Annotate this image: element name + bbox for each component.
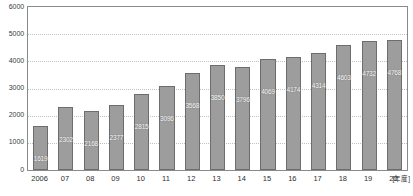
bar-slot: 4174 xyxy=(286,7,301,170)
bar-value-label: 3096 xyxy=(160,115,174,122)
bar-value-label: 4768 xyxy=(388,69,402,76)
bar-slot: 2377 xyxy=(109,7,124,170)
x-tick-label: 10 xyxy=(137,174,145,183)
bar-slot: 2168 xyxy=(84,7,99,170)
bar-value-label: 2377 xyxy=(110,134,124,141)
bar-slot: 4768 xyxy=(387,7,402,170)
y-tick-label: 4000 xyxy=(9,57,24,64)
bar[interactable] xyxy=(260,59,275,170)
bar[interactable] xyxy=(286,57,301,170)
y-axis: 0100020003000400050006000 xyxy=(0,0,26,196)
plot-area: 1619230221682377281530963568385037964069… xyxy=(27,6,408,171)
y-tick-label: 1000 xyxy=(9,138,24,145)
bar-slot: 1619 xyxy=(33,7,48,170)
bar[interactable] xyxy=(387,40,402,170)
bar-slot: 2302 xyxy=(58,7,73,170)
bar-value-label: 2168 xyxy=(84,140,98,147)
bar[interactable] xyxy=(134,94,149,170)
bar-chart: 0100020003000400050006000 16192302216823… xyxy=(0,0,413,196)
x-tick-label: 17 xyxy=(313,174,321,183)
bar[interactable] xyxy=(159,86,174,170)
bar-value-label: 4732 xyxy=(362,70,376,77)
bar-slot: 3568 xyxy=(185,7,200,170)
bar-value-label: 4174 xyxy=(286,86,300,93)
x-tick-label: 08 xyxy=(86,174,94,183)
bar-value-label: 4314 xyxy=(312,82,326,89)
x-tick-label: 2006 xyxy=(31,174,48,183)
y-tick-label: 5000 xyxy=(9,30,24,37)
x-axis: 20060708091011121314151617181920[年度] xyxy=(27,174,408,190)
bar[interactable] xyxy=(362,41,377,170)
bar-value-label: 4603 xyxy=(337,74,351,81)
x-tick-label: 15 xyxy=(263,174,271,183)
bar-value-label: 1619 xyxy=(34,155,48,162)
y-tick-label: 2000 xyxy=(9,111,24,118)
y-tick-label: 6000 xyxy=(9,3,24,10)
bar-slot: 3850 xyxy=(210,7,225,170)
bar-value-label: 3796 xyxy=(236,96,250,103)
bar-value-label: 2302 xyxy=(59,136,73,143)
x-axis-unit-label: [年度] xyxy=(392,174,410,183)
x-tick-label: 14 xyxy=(238,174,246,183)
x-tick-label: 07 xyxy=(61,174,69,183)
bar-slot: 4069 xyxy=(260,7,275,170)
bar-slot: 2815 xyxy=(134,7,149,170)
x-tick-label: 13 xyxy=(212,174,220,183)
x-tick-label: 16 xyxy=(288,174,296,183)
bar[interactable] xyxy=(336,45,351,170)
x-tick-label: 11 xyxy=(162,174,170,183)
bar-slot: 4314 xyxy=(311,7,326,170)
y-tick-label: 0 xyxy=(20,166,24,173)
bar-slot: 3796 xyxy=(235,7,250,170)
bar-value-label: 4069 xyxy=(261,88,275,95)
bar-slot: 3096 xyxy=(159,7,174,170)
x-tick-label: 09 xyxy=(111,174,119,183)
x-tick-label: 19 xyxy=(364,174,372,183)
x-tick-label: 12 xyxy=(187,174,195,183)
x-tick-label: 18 xyxy=(339,174,347,183)
y-tick-label: 3000 xyxy=(9,84,24,91)
bar-value-label: 3568 xyxy=(185,102,199,109)
bar[interactable] xyxy=(33,126,48,170)
bar[interactable] xyxy=(210,65,225,170)
bar[interactable] xyxy=(185,73,200,170)
bar[interactable] xyxy=(235,67,250,170)
bar-value-label: 2815 xyxy=(135,123,149,130)
bar-value-label: 3850 xyxy=(211,94,225,101)
bar-slot: 4603 xyxy=(336,7,351,170)
bars-layer: 1619230221682377281530963568385037964069… xyxy=(28,7,407,170)
bar[interactable] xyxy=(311,53,326,170)
bar-slot: 4732 xyxy=(362,7,377,170)
